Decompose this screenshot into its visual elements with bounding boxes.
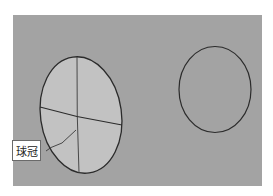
spherical-cap-label: 球冠 (12, 140, 41, 161)
label-text: 球冠 (16, 143, 38, 159)
diagram-canvas (0, 0, 273, 196)
spherical-cap-diagram: 球冠 (0, 0, 273, 196)
